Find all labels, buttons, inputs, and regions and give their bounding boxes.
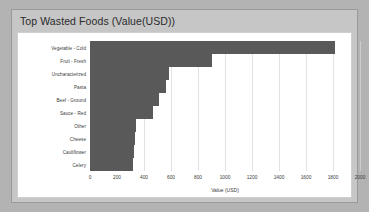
bar-row[interactable]: Sauce - Red bbox=[90, 106, 360, 119]
y-axis-tick-label: Celery bbox=[72, 162, 86, 167]
bar-row[interactable]: Fruit - Fresh bbox=[90, 54, 360, 67]
x-axis-tick-label: 0 bbox=[89, 175, 92, 180]
chart-title: Top Wasted Foods (Value(USD)) bbox=[20, 15, 175, 27]
bar[interactable] bbox=[90, 80, 166, 93]
bar-row[interactable]: Vegetable - Cold bbox=[90, 41, 360, 54]
bar[interactable] bbox=[90, 41, 335, 54]
page-background: Top Wasted Foods (Value(USD)) Vegetable … bbox=[0, 0, 369, 212]
x-axis-tick-label: 1000 bbox=[220, 175, 231, 180]
bar[interactable] bbox=[90, 119, 136, 132]
x-axis-title: Value (USD) bbox=[211, 187, 239, 193]
bar-row[interactable]: Cheese bbox=[90, 132, 360, 145]
y-axis-tick-label: Uncharacterized bbox=[52, 71, 86, 76]
x-axis-tick-label: 1200 bbox=[247, 175, 258, 180]
bar[interactable] bbox=[90, 145, 134, 158]
x-axis-tick-label: 1800 bbox=[328, 175, 339, 180]
y-axis-tick-label: Sauce - Red bbox=[60, 110, 86, 115]
y-axis-tick-label: Vegetable - Cold bbox=[51, 45, 86, 50]
y-axis-tick-label: Pasta bbox=[74, 84, 86, 89]
gridline bbox=[360, 41, 361, 171]
chart-plot-panel: Vegetable - ColdFruit - FreshUncharacter… bbox=[17, 32, 352, 198]
bar[interactable] bbox=[90, 106, 153, 119]
x-axis-tick-label: 1600 bbox=[301, 175, 312, 180]
plot-area: Vegetable - ColdFruit - FreshUncharacter… bbox=[90, 41, 360, 171]
bar-row[interactable]: Celery bbox=[90, 158, 360, 171]
x-axis-tick-label: 400 bbox=[140, 175, 148, 180]
bar[interactable] bbox=[90, 54, 212, 67]
bar[interactable] bbox=[90, 158, 133, 171]
y-axis-tick-label: Other bbox=[74, 123, 86, 128]
bar-row[interactable]: Cauliflower bbox=[90, 145, 360, 158]
bar[interactable] bbox=[90, 132, 135, 145]
x-axis-tick-label: 200 bbox=[113, 175, 121, 180]
bar-row[interactable]: Uncharacterized bbox=[90, 67, 360, 80]
bar-row[interactable]: Other bbox=[90, 119, 360, 132]
x-axis-tick-label: 600 bbox=[167, 175, 175, 180]
x-axis-tick-label: 1400 bbox=[274, 175, 285, 180]
bar-row[interactable]: Pasta bbox=[90, 80, 360, 93]
chart-card: Top Wasted Foods (Value(USD)) Vegetable … bbox=[11, 9, 358, 203]
y-axis-tick-label: Beef - Ground bbox=[56, 97, 86, 102]
bar[interactable] bbox=[90, 67, 169, 80]
y-axis-tick-label: Cheese bbox=[70, 136, 86, 141]
x-axis-tick-label: 800 bbox=[194, 175, 202, 180]
y-axis-tick-label: Cauliflower bbox=[63, 149, 86, 154]
x-axis-tick-label: 2000 bbox=[355, 175, 366, 180]
bar[interactable] bbox=[90, 93, 159, 106]
y-axis-tick-label: Fruit - Fresh bbox=[60, 58, 86, 63]
bar-row[interactable]: Beef - Ground bbox=[90, 93, 360, 106]
